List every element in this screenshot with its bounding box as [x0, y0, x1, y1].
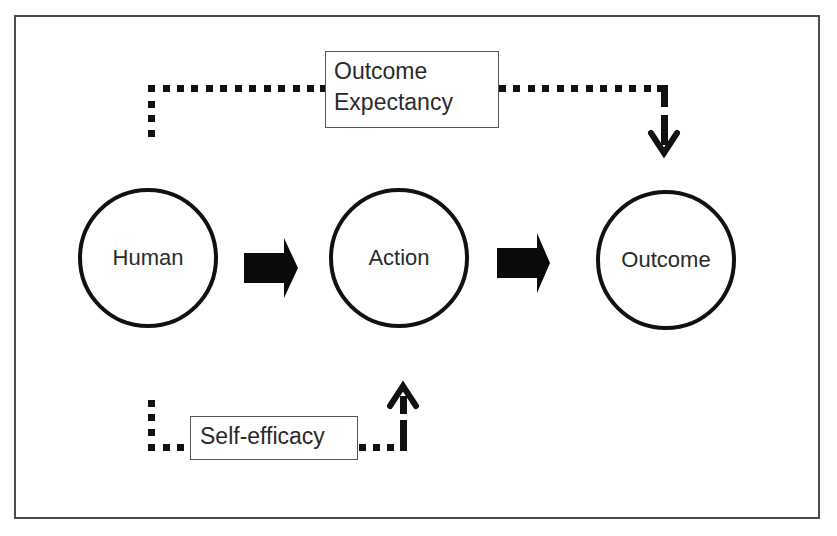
diagram-canvas: Human Action Outcome Outcome Expectancy …	[0, 0, 837, 536]
self-efficacy-label-box: Self-efficacy	[190, 416, 358, 460]
node-human: Human	[78, 188, 218, 328]
self-efficacy-label: Self-efficacy	[200, 423, 325, 449]
node-action-label: Action	[368, 245, 429, 271]
node-action: Action	[329, 188, 469, 328]
outcome-expectancy-line1: Outcome	[334, 56, 490, 87]
node-human-label: Human	[113, 245, 184, 271]
outcome-expectancy-label-box: Outcome Expectancy	[325, 51, 499, 128]
node-outcome-label: Outcome	[621, 247, 710, 273]
arrow-action-to-outcome-icon	[497, 233, 550, 293]
arrow-human-to-action-icon	[244, 238, 298, 298]
node-outcome: Outcome	[596, 190, 736, 330]
outcome-expectancy-line2: Expectancy	[334, 87, 490, 118]
